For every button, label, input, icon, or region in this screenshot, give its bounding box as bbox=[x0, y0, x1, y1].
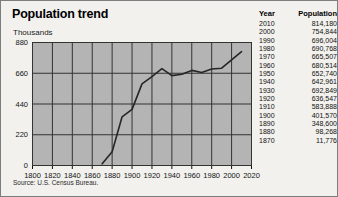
figure-inner-frame: Population trend Thousands 0220440660880… bbox=[4, 4, 336, 195]
table-row: 1970665,507 bbox=[259, 53, 337, 61]
column-header-population: Population bbox=[285, 9, 337, 20]
table-row: 188098,268 bbox=[259, 128, 337, 136]
cell-year: 1870 bbox=[259, 137, 285, 145]
cell-population: 665,507 bbox=[285, 53, 337, 61]
table-head: Year Population bbox=[259, 9, 337, 20]
cell-year: 1970 bbox=[259, 53, 285, 61]
x-tick-label: 2020 bbox=[239, 171, 265, 180]
cell-year: 1920 bbox=[259, 95, 285, 103]
cell-population: 98,268 bbox=[285, 128, 337, 136]
table-row: 1920636,547 bbox=[259, 95, 337, 103]
cell-population: 636,547 bbox=[285, 95, 337, 103]
cell-year: 1940 bbox=[259, 78, 285, 86]
cell-year: 1960 bbox=[259, 62, 285, 70]
cell-year: 1980 bbox=[259, 45, 285, 53]
table-row: 1990696,004 bbox=[259, 37, 337, 45]
cell-population: 814,180 bbox=[285, 20, 337, 28]
y-tick-label: 220 bbox=[4, 130, 28, 139]
cell-year: 1910 bbox=[259, 103, 285, 111]
y-tick-label: 880 bbox=[4, 38, 28, 47]
cell-year: 1930 bbox=[259, 87, 285, 95]
cell-population: 348,600 bbox=[285, 120, 337, 128]
population-data-table: Year Population 2010814,1802000754,84419… bbox=[259, 9, 337, 145]
cell-population: 680,514 bbox=[285, 62, 337, 70]
table-header-row: Year Population bbox=[259, 9, 337, 20]
table-row: 187011,776 bbox=[259, 137, 337, 145]
table-row: 2000754,844 bbox=[259, 28, 337, 36]
cell-year: 2010 bbox=[259, 20, 285, 28]
cell-population: 652,740 bbox=[285, 70, 337, 78]
y-tick-label: 440 bbox=[4, 100, 28, 109]
cell-year: 2000 bbox=[259, 28, 285, 36]
source-note: Source: U.S. Census Bureau. bbox=[13, 179, 98, 186]
cell-year: 1950 bbox=[259, 70, 285, 78]
cell-population: 692,849 bbox=[285, 87, 337, 95]
table-row: 1930692,849 bbox=[259, 87, 337, 95]
page-title: Population trend bbox=[12, 7, 108, 21]
data-table-element: Year Population 2010814,1802000754,84419… bbox=[259, 9, 337, 145]
column-header-year: Year bbox=[259, 9, 285, 20]
cell-year: 1890 bbox=[259, 120, 285, 128]
table-row: 1980690,768 bbox=[259, 45, 337, 53]
cell-population: 401,570 bbox=[285, 112, 337, 120]
table-body: 2010814,1802000754,8441990696,0041980690… bbox=[259, 20, 337, 145]
cell-population: 754,844 bbox=[285, 28, 337, 36]
cell-population: 696,004 bbox=[285, 37, 337, 45]
table-row: 1900401,570 bbox=[259, 112, 337, 120]
table-row: 1910583,888 bbox=[259, 103, 337, 111]
cell-population: 583,888 bbox=[285, 103, 337, 111]
y-axis-units-label: Thousands bbox=[13, 28, 53, 37]
table-row: 1950652,740 bbox=[259, 70, 337, 78]
table-row: 2010814,180 bbox=[259, 20, 337, 28]
table-row: 1940642,961 bbox=[259, 78, 337, 86]
cell-year: 1900 bbox=[259, 112, 285, 120]
cell-population: 690,768 bbox=[285, 45, 337, 53]
cell-population: 11,776 bbox=[285, 137, 337, 145]
cell-year: 1880 bbox=[259, 128, 285, 136]
cell-year: 1990 bbox=[259, 37, 285, 45]
population-trend-figure: Population trend Thousands 0220440660880… bbox=[0, 0, 338, 197]
y-tick-label: 660 bbox=[4, 69, 28, 78]
table-row: 1890348,600 bbox=[259, 120, 337, 128]
cell-population: 642,961 bbox=[285, 78, 337, 86]
chart-plot-area: 0220440660880 18001820184018601880190019… bbox=[32, 42, 259, 166]
table-row: 1960680,514 bbox=[259, 62, 337, 70]
y-tick-label: 0 bbox=[4, 161, 28, 170]
